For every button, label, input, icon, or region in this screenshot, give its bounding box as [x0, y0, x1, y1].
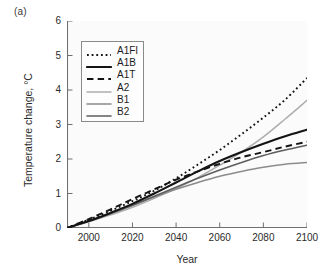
legend-swatch-b1-icon [86, 95, 112, 105]
legend-label: A1FI [117, 46, 138, 56]
legend-item-a1b[interactable]: A1B [86, 57, 138, 69]
legend-swatch-b2-icon [86, 107, 112, 117]
y-tick-label: 6 [39, 16, 61, 26]
x-tick-label: 2100 [285, 233, 329, 243]
y-tick-label: 0 [39, 223, 61, 233]
legend-item-b2[interactable]: B2 [86, 106, 138, 118]
legend-label: B1 [117, 95, 129, 105]
figure-panel: (a) Temperature change, °C Year 0123456 … [0, 0, 334, 272]
legend-swatch-a1b-icon [86, 58, 112, 68]
panel-label: (a) [14, 6, 27, 17]
x-axis-title: Year [62, 253, 312, 265]
legend-swatch-a1fi-icon [86, 46, 112, 56]
x-tick-label: 2000 [67, 233, 111, 243]
legend-label: A1B [117, 58, 136, 68]
y-axis-title: Temperature change, °C [22, 40, 34, 220]
legend-item-a1fi[interactable]: A1FI [86, 45, 138, 57]
legend-item-a1t[interactable]: A1T [86, 69, 138, 81]
legend-label: A1T [117, 70, 135, 80]
x-tick-label: 2080 [241, 233, 285, 243]
y-tick-label: 3 [39, 120, 61, 130]
legend-item-a2[interactable]: A2 [86, 82, 138, 94]
y-tick-label: 1 [39, 189, 61, 199]
y-tick-label: 2 [39, 154, 61, 164]
legend-item-b1[interactable]: B1 [86, 94, 138, 106]
series-line-b1 [67, 162, 307, 228]
x-tick-label: 2060 [198, 233, 242, 243]
y-tick-label: 4 [39, 85, 61, 95]
x-tick-label: 2020 [110, 233, 154, 243]
legend-swatch-a1t-icon [86, 70, 112, 80]
legend-label: A2 [117, 83, 129, 93]
y-tick-label: 5 [39, 51, 61, 61]
legend: A1FIA1BA1TA2B1B2 [81, 41, 144, 122]
legend-label: B2 [117, 107, 129, 117]
x-tick-label: 2040 [154, 233, 198, 243]
legend-swatch-a2-icon [86, 83, 112, 93]
